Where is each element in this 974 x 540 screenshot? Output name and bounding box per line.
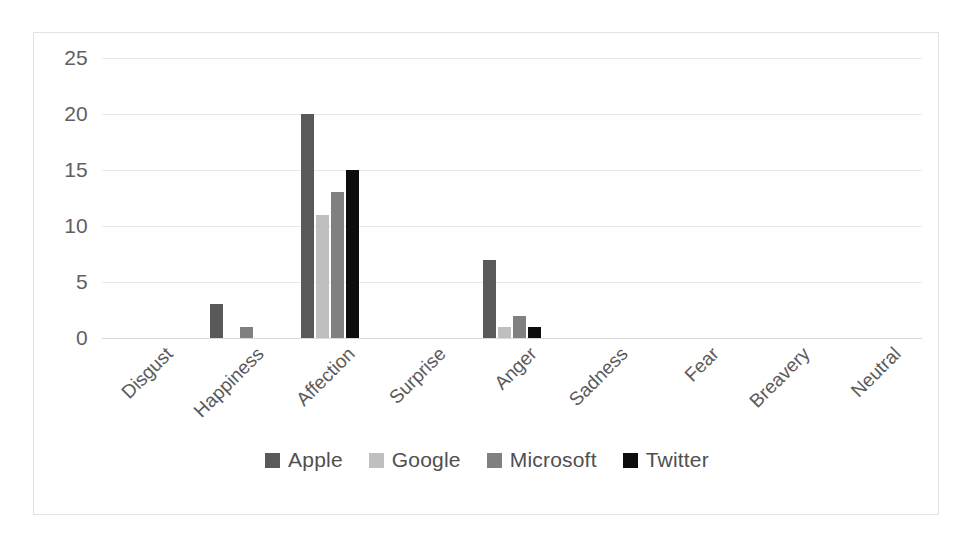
- bar[interactable]: [513, 316, 526, 338]
- legend-swatch-icon: [265, 453, 280, 468]
- legend-item-google[interactable]: Google: [369, 448, 461, 472]
- y-axis-tick-label: 15: [64, 158, 88, 182]
- x-axis-category-label: Sadness: [565, 343, 633, 411]
- x-axis-label-slot: Affection: [292, 343, 360, 411]
- bar-group: [375, 58, 466, 338]
- bar[interactable]: [210, 304, 223, 338]
- legend-label: Google: [392, 448, 461, 472]
- legend-swatch-icon: [623, 453, 638, 468]
- bar[interactable]: [528, 327, 541, 338]
- x-axis-category-label: Disgust: [117, 343, 177, 403]
- legend-item-apple[interactable]: Apple: [265, 448, 343, 472]
- x-axis-label-slot: Disgust: [117, 343, 177, 403]
- bar-group: [102, 58, 193, 338]
- bar[interactable]: [301, 114, 314, 338]
- x-axis-category-label: Fear: [681, 343, 724, 386]
- y-axis-tick-label: 25: [64, 46, 88, 70]
- bar[interactable]: [240, 327, 253, 338]
- legend-label: Twitter: [646, 448, 709, 472]
- legend-item-microsoft[interactable]: Microsoft: [487, 448, 597, 472]
- chart-frame: 0510152025 DisgustHappinessAffectionSurp…: [33, 32, 939, 515]
- bar[interactable]: [346, 170, 359, 338]
- bar-group: [558, 58, 649, 338]
- x-axis-category-labels: DisgustHappinessAffectionSurpriseAngerSa…: [102, 343, 922, 438]
- bar[interactable]: [316, 215, 329, 338]
- chart-legend: AppleGoogleMicrosoftTwitter: [34, 448, 940, 472]
- x-axis-label-slot: Neutral: [847, 343, 906, 402]
- bar[interactable]: [483, 260, 496, 338]
- y-axis-tick-label: 10: [64, 214, 88, 238]
- x-axis-label-slot: Surprise: [385, 343, 451, 409]
- bar-group: [193, 58, 284, 338]
- y-axis-tick-label: 5: [76, 270, 88, 294]
- plot-area: 0510152025: [102, 58, 922, 338]
- x-axis-category-label: Happiness: [189, 343, 268, 422]
- x-axis-category-label: Affection: [292, 343, 360, 411]
- bar-group: [740, 58, 831, 338]
- bar[interactable]: [498, 327, 511, 338]
- bar-group: [831, 58, 922, 338]
- y-axis-tick-label: 0: [76, 326, 88, 350]
- x-axis-label-slot: Happiness: [189, 343, 268, 422]
- bar[interactable]: [331, 192, 344, 338]
- x-axis-label-slot: Anger: [490, 343, 541, 394]
- x-axis-label-slot: Sadness: [565, 343, 633, 411]
- bar-group: [284, 58, 375, 338]
- x-axis-category-label: Breavery: [746, 343, 815, 412]
- legend-item-twitter[interactable]: Twitter: [623, 448, 709, 472]
- x-axis-label-slot: Breavery: [746, 343, 815, 412]
- legend-swatch-icon: [369, 453, 384, 468]
- x-axis-label-slot: Fear: [681, 343, 724, 386]
- legend-label: Apple: [288, 448, 343, 472]
- x-axis-category-label: Anger: [490, 343, 541, 394]
- bar-series-layer: [102, 58, 922, 338]
- y-axis-tick-label: 20: [64, 102, 88, 126]
- bar-group: [466, 58, 557, 338]
- x-axis-category-label: Surprise: [385, 343, 451, 409]
- x-axis-category-label: Neutral: [847, 343, 906, 402]
- legend-swatch-icon: [487, 453, 502, 468]
- legend-label: Microsoft: [510, 448, 597, 472]
- bar-group: [649, 58, 740, 338]
- gridline: [102, 338, 922, 339]
